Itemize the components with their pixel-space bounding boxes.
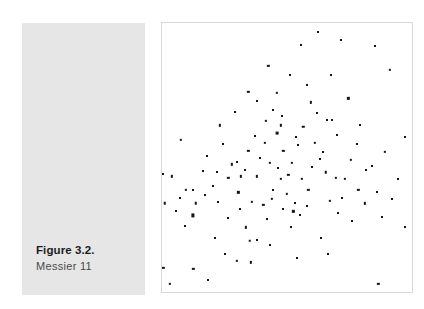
scatter-point <box>192 214 195 217</box>
scatter-point <box>266 218 268 220</box>
scatter-point <box>244 169 246 171</box>
scatter-point <box>391 198 393 200</box>
scatter-point <box>343 178 345 180</box>
scatter-point <box>340 39 342 41</box>
scatter-point <box>326 119 328 121</box>
scatter-point <box>212 185 214 187</box>
scatter-point <box>291 162 293 164</box>
scatter-point <box>248 240 251 243</box>
figure-subtitle: Messier 11 <box>36 259 140 273</box>
scatter-point <box>356 143 358 145</box>
scatter-point <box>301 178 303 180</box>
scatter-point <box>388 69 390 71</box>
scatter-point <box>195 202 198 205</box>
scatter-point <box>216 171 218 173</box>
scatter-point <box>234 111 236 113</box>
scatter-point <box>335 177 337 179</box>
scatter-point <box>287 174 289 176</box>
scatter-point <box>168 283 170 285</box>
scatter-point <box>280 178 282 180</box>
scatter-point <box>336 134 338 136</box>
scatter-point <box>359 124 361 126</box>
scatter-point <box>269 244 271 246</box>
scatter-point <box>286 193 288 195</box>
scatter-point <box>236 260 238 262</box>
scatter-point <box>192 189 194 191</box>
scatter-point <box>239 208 241 210</box>
scatter-point <box>282 208 284 210</box>
scatter-point <box>192 268 194 270</box>
scatter-point <box>319 158 321 160</box>
scatter-point <box>271 198 273 200</box>
scatter-point <box>327 253 329 255</box>
scatter-point <box>294 202 296 204</box>
scatter-point <box>300 44 302 46</box>
scatter-point <box>268 162 270 164</box>
caption-block: Figure 3.2. Messier 11 <box>36 243 140 273</box>
scatter-point <box>175 210 177 212</box>
scatter-point <box>251 201 253 203</box>
scatter-point <box>185 189 187 191</box>
scatter-point <box>256 100 258 102</box>
scatter-point <box>224 253 226 255</box>
scatter-point <box>341 197 343 199</box>
scatter-point <box>347 97 349 99</box>
scatter-point <box>254 135 256 137</box>
scatter-point <box>320 237 322 239</box>
scatter-point <box>374 45 376 47</box>
scatter-point <box>290 226 292 228</box>
scatter-point <box>310 101 312 103</box>
scatter-point <box>162 173 164 175</box>
scatter-point <box>184 225 186 227</box>
scatter-point <box>222 143 224 145</box>
scatter-point <box>262 203 264 205</box>
scatter-point <box>280 124 282 126</box>
scatter-point <box>299 214 301 216</box>
scatter-point <box>296 257 298 259</box>
scatter-point <box>322 151 324 153</box>
scatter-point <box>306 205 308 207</box>
scatter-point <box>272 189 274 191</box>
scatter-point <box>204 194 206 196</box>
scatter-point <box>247 150 249 152</box>
scatter-point <box>267 65 269 67</box>
scatter-point <box>202 170 204 172</box>
scatter-point <box>272 109 274 111</box>
scatter-point <box>381 216 383 218</box>
scatter-point <box>245 226 247 228</box>
figure-root: Figure 3.2. Messier 11 <box>0 0 424 309</box>
scatter-point <box>313 142 315 144</box>
scatter-point <box>317 31 319 33</box>
scatter-point <box>306 84 308 86</box>
scatter-point <box>404 226 406 228</box>
scatter-plot-surface <box>162 23 412 292</box>
scatter-point <box>179 197 181 199</box>
scatter-point <box>297 144 299 146</box>
scatter-point <box>171 175 173 177</box>
scatter-point <box>282 150 284 152</box>
scatter-point <box>365 169 367 171</box>
scatter-point <box>289 74 291 76</box>
scatter-point <box>302 125 305 128</box>
scatter-point <box>263 142 265 144</box>
scatter-point <box>259 157 261 159</box>
scatter-point <box>376 191 378 193</box>
scatter-point <box>227 217 229 219</box>
scatter-point <box>328 199 330 201</box>
scatter-point <box>276 132 279 135</box>
scatter-point <box>331 119 333 121</box>
figure-number: Figure 3.2. <box>36 243 140 258</box>
scatter-point <box>256 175 258 177</box>
scatter-point <box>265 120 267 122</box>
scatter-point <box>307 189 309 191</box>
scatter-point <box>292 210 294 212</box>
scatter-point <box>206 155 208 157</box>
scatter-point <box>247 90 249 92</box>
scatter-point <box>276 92 278 94</box>
scatter-point <box>227 177 229 179</box>
scatter-plot-panel <box>161 22 413 293</box>
scatter-point <box>277 167 279 169</box>
scatter-point <box>337 212 339 214</box>
scatter-point <box>357 189 359 191</box>
scatter-point <box>218 124 220 126</box>
